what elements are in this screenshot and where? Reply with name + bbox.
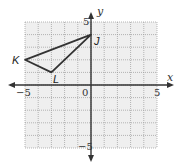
vertex-label-l: L xyxy=(53,74,59,85)
y-axis-down-arrow-icon xyxy=(88,155,94,162)
tick-label-y-pos5: 5 xyxy=(83,17,89,27)
vertex-label-j: J xyxy=(94,36,100,47)
y-axis-label: y xyxy=(97,6,103,17)
vertex-label-k: K xyxy=(12,55,19,66)
tick-label-y-neg5: −5 xyxy=(78,142,93,152)
coordinate-plane: x y −5 0 5 5 −5 J K L xyxy=(0,0,177,168)
tick-label-x-neg5: −5 xyxy=(16,88,31,98)
tick-label-origin: 0 xyxy=(82,88,88,98)
x-axis-label: x xyxy=(167,72,173,83)
tick-label-x-pos5: 5 xyxy=(154,88,160,98)
x-axis-left-arrow-icon xyxy=(8,82,15,88)
